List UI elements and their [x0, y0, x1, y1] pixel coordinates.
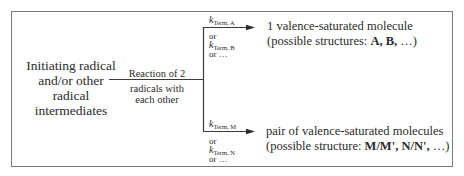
reaction-label-below-2: each other: [112, 94, 202, 106]
product-molecule-pair: pair of valence-saturated molecules (pos…: [266, 124, 449, 154]
top-arrowhead-icon: [246, 25, 255, 30]
product-line-2-suffix: …): [397, 34, 417, 48]
product-line-1: 1 valence-saturated molecule: [267, 19, 417, 34]
source-node: Initiating radical and/or other radical …: [26, 58, 116, 118]
source-line-4: intermediates: [26, 103, 116, 118]
product-line-2-prefix: (possible structures:: [267, 34, 370, 48]
source-line-3: radical: [26, 88, 116, 103]
product-single-molecule: 1 valence-saturated molecule (possible s…: [267, 19, 417, 49]
product-structures: M/M', N/N',: [365, 139, 430, 153]
product-line-2-prefix: (possible structure:: [266, 139, 365, 153]
product-line-2: (possible structure: M/M', N/N', …): [266, 139, 449, 154]
rate-constant-term-m: kTerm, M: [209, 119, 236, 132]
alternative-or-ellipsis: or …: [209, 50, 228, 60]
product-line-2: (possible structures: A, B, …): [267, 34, 417, 49]
reaction-label: Reaction of 2 radicals with each other: [112, 68, 202, 106]
reaction-label-above: Reaction of 2: [112, 68, 202, 80]
rate-constant-term-a: kTerm, A: [209, 15, 235, 28]
reaction-label-below-1: radicals with: [112, 83, 202, 95]
rate-subscript: Term, A: [213, 19, 234, 26]
source-line-2: and/or other: [26, 73, 116, 88]
rate-subscript: Term, M: [213, 123, 236, 130]
product-line-2-suffix: …): [430, 139, 450, 153]
source-line-1: Initiating radical: [26, 58, 116, 73]
product-structures: A, B,: [370, 34, 397, 48]
product-line-1: pair of valence-saturated molecules: [266, 124, 449, 139]
alternative-or-ellipsis: or …: [209, 155, 228, 165]
bottom-arrowhead-icon: [246, 129, 255, 134]
